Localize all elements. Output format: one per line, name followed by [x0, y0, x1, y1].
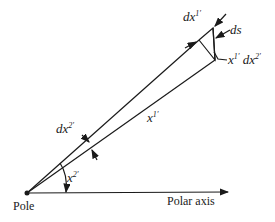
label-ds: ds	[230, 22, 242, 38]
label-x1-dx2: x1′ dx2′	[228, 52, 261, 68]
label-pole: Pole	[13, 199, 34, 214]
pole-point	[25, 191, 30, 196]
label-dx2: dx2′	[56, 121, 74, 137]
polar-axis-line	[27, 192, 228, 193]
label-polar-axis: Polar axis	[167, 194, 215, 209]
label-x2-angle: x2′	[67, 170, 79, 186]
ray-upper	[27, 40, 199, 193]
label-dx1: dx1′	[183, 9, 201, 25]
element-box	[199, 28, 215, 60]
label-x1: x1′	[147, 110, 159, 126]
